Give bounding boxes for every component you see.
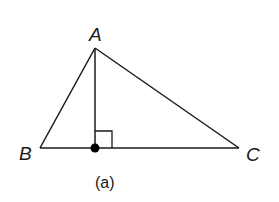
- side-ab: [40, 48, 95, 148]
- triangle-diagram: A B C (a): [0, 0, 279, 202]
- side-ac: [95, 48, 239, 148]
- vertex-label-a: A: [88, 24, 102, 45]
- vertex-label-c: C: [246, 144, 260, 165]
- vertex-label-b: B: [19, 143, 32, 164]
- altitude-foot-point: [91, 144, 100, 153]
- diagram-caption: (a): [95, 174, 115, 191]
